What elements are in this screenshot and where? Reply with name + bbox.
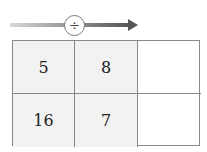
grid-cell: 5 (13, 41, 75, 94)
grid-cell: 7 (75, 94, 138, 147)
number-grid: 5 8 16 7 (12, 40, 200, 146)
grid-cell-empty[interactable] (138, 94, 201, 147)
divide-icon: ÷ (64, 15, 85, 36)
grid-cell: 16 (13, 94, 75, 147)
grid-cell: 8 (75, 41, 138, 94)
grid-cell-empty[interactable] (138, 41, 201, 94)
arrow-right-icon (128, 19, 138, 31)
operation-arrow: ÷ (10, 15, 140, 35)
